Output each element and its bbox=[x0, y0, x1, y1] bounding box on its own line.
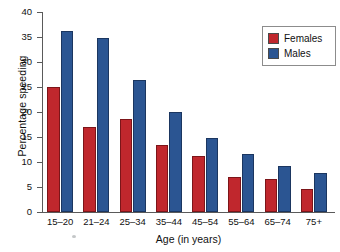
legend-swatch-males-icon bbox=[268, 48, 279, 59]
y-tick-label: 0 bbox=[0, 207, 32, 217]
y-tick-label: 10 bbox=[0, 157, 32, 167]
chart-legend: Females Males bbox=[262, 26, 336, 66]
scan-artifact-speck bbox=[72, 235, 76, 238]
legend-item-males: Males bbox=[268, 46, 331, 61]
legend-item-females: Females bbox=[268, 31, 331, 46]
y-tick-label: 15 bbox=[0, 132, 32, 142]
y-tick-label: 5 bbox=[0, 182, 32, 192]
bar-females-1 bbox=[83, 127, 95, 212]
y-tick-mark bbox=[37, 212, 42, 213]
legend-swatch-females-icon bbox=[268, 33, 279, 44]
x-axis-spine bbox=[42, 212, 335, 213]
bar-males-5 bbox=[242, 154, 254, 213]
y-tick-label: 40 bbox=[0, 7, 32, 17]
bar-females-3 bbox=[156, 145, 168, 213]
x-axis-title: Age (in years) bbox=[42, 233, 335, 245]
legend-label-females: Females bbox=[284, 33, 322, 44]
bar-males-6 bbox=[278, 166, 290, 212]
y-tick-label: 35 bbox=[0, 32, 32, 42]
bar-females-4 bbox=[192, 156, 204, 212]
legend-label-males: Males bbox=[284, 48, 311, 59]
bar-males-3 bbox=[169, 112, 181, 213]
bar-females-0 bbox=[47, 87, 59, 212]
y-tick-label: 25 bbox=[0, 82, 32, 92]
bar-females-5 bbox=[228, 177, 240, 212]
bar-males-2 bbox=[133, 80, 145, 212]
bar-males-7 bbox=[314, 173, 326, 212]
bar-females-7 bbox=[301, 189, 313, 213]
y-tick-label: 20 bbox=[0, 107, 32, 117]
bar-males-4 bbox=[206, 138, 218, 212]
bar-males-0 bbox=[61, 31, 73, 213]
bar-males-1 bbox=[97, 38, 109, 212]
bar-females-6 bbox=[265, 179, 277, 212]
x-tick-label: 75+ bbox=[289, 216, 339, 227]
y-tick-label: 30 bbox=[0, 57, 32, 67]
bar-females-2 bbox=[120, 119, 132, 212]
bar-chart: Percentage speeding 0510152025303540 15–… bbox=[0, 0, 340, 252]
